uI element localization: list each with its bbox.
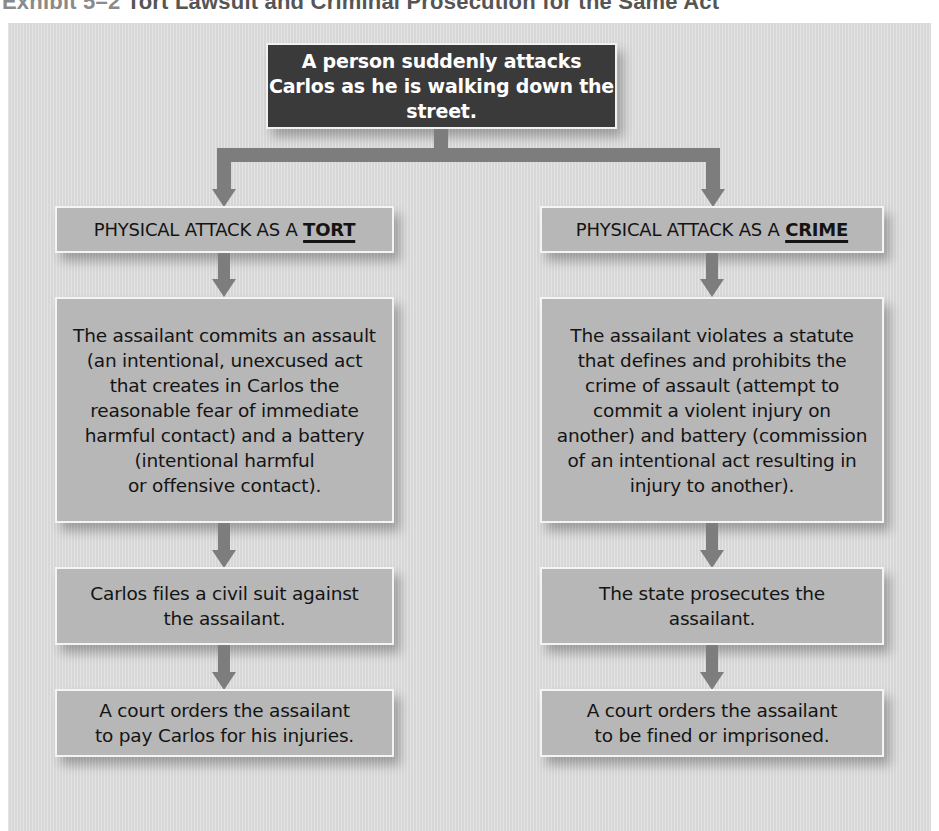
- tort-step-1-text: The assailant commits an assault (an int…: [73, 323, 376, 498]
- left-branch-arrow-icon: [212, 189, 236, 207]
- crime-arrow-icon-1: [700, 279, 724, 297]
- crime-header-prefix: PHYSICAL ATTACK AS A: [576, 219, 785, 240]
- crime-header-box: PHYSICAL ATTACK AS A CRIME: [540, 206, 884, 253]
- crime-step-3-box: A court orders the assailant to be fined…: [540, 689, 884, 757]
- tort-step-2-text: Carlos files a civil suit against the as…: [90, 581, 358, 631]
- tort-header-emphasis: TORT: [303, 219, 355, 240]
- tort-header-box: PHYSICAL ATTACK AS A TORT: [55, 206, 394, 253]
- root-event-box: A person suddenly attacks Carlos as he i…: [266, 43, 617, 129]
- exhibit-number: Exhibit 5–2: [2, 0, 120, 14]
- crime-step-2-text: The state prosecutes the assailant.: [599, 581, 825, 631]
- crime-header-emphasis: CRIME: [785, 219, 848, 240]
- crime-step-3-text: A court orders the assailant to be fined…: [587, 698, 838, 748]
- tort-header-prefix: PHYSICAL ATTACK AS A: [94, 219, 303, 240]
- root-event-text: A person suddenly attacks Carlos as he i…: [268, 49, 615, 124]
- root-connector-stem: [434, 129, 448, 149]
- tort-step-3-box: A court orders the assailant to pay Carl…: [55, 689, 394, 757]
- tort-arrow-stem-2: [218, 523, 230, 551]
- left-branch-stem: [217, 148, 231, 190]
- tort-step-3-text: A court orders the assailant to pay Carl…: [95, 698, 354, 748]
- tort-arrow-icon-1: [212, 279, 236, 297]
- tort-step-1-box: The assailant commits an assault (an int…: [55, 297, 394, 523]
- tort-step-2-box: Carlos files a civil suit against the as…: [55, 567, 394, 645]
- right-branch-arrow-icon: [701, 189, 725, 207]
- crime-step-1-box: The assailant violates a statute that de…: [540, 297, 884, 523]
- crime-arrow-stem-3: [706, 645, 718, 673]
- tort-arrow-stem-1: [218, 253, 230, 281]
- crime-arrow-icon-2: [700, 550, 724, 568]
- crime-step-1-text: The assailant violates a statute that de…: [557, 323, 868, 498]
- crime-arrow-stem-2: [706, 523, 718, 551]
- right-branch-stem: [706, 148, 720, 190]
- crime-step-2-box: The state prosecutes the assailant.: [540, 567, 884, 645]
- crime-arrow-stem-1: [706, 253, 718, 281]
- exhibit-title: Exhibit 5–2 Tort Lawsuit and Criminal Pr…: [2, 0, 719, 15]
- exhibit-title-text: Tort Lawsuit and Criminal Prosecution fo…: [127, 0, 720, 14]
- branch-connector-bar: [217, 148, 720, 162]
- tort-arrow-icon-2: [212, 550, 236, 568]
- tort-arrow-stem-3: [218, 645, 230, 673]
- crime-arrow-icon-3: [700, 672, 724, 690]
- tort-arrow-icon-3: [212, 672, 236, 690]
